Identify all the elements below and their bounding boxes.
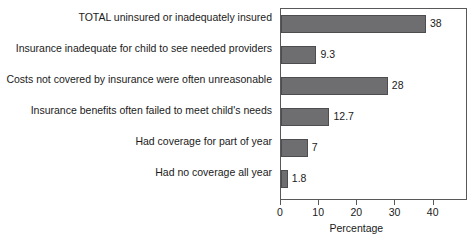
category-label-inadequate-providers: Insurance inadequate for child to see ne… [16,39,272,57]
bar-total-uninsured [281,15,426,33]
x-axis: 0 10 20 30 40 Percentage [280,200,467,240]
bar-benefits-failed [281,108,329,126]
category-label-no-coverage: Had no coverage all year [155,163,272,181]
category-axis-labels: TOTAL uninsured or inadequately insured … [0,8,276,200]
x-tick-label-20: 20 [350,206,362,218]
x-tick-mark-20 [356,200,357,205]
value-label-no-coverage: 1.8 [292,169,307,187]
category-label-costs-unreasonable: Costs not covered by insurance were ofte… [6,70,272,88]
value-label-total-uninsured: 38 [430,14,442,32]
value-label-partial-coverage: 7 [312,138,318,156]
value-label-benefits-failed: 12.7 [333,107,353,125]
x-tick-label-30: 30 [389,206,401,218]
bar-costs-unreasonable [281,77,388,95]
bar-chart: TOTAL uninsured or inadequately insured … [0,0,475,240]
x-tick-label-0: 0 [277,206,283,218]
x-tick-label-10: 10 [312,206,324,218]
x-tick-mark-0 [280,200,281,205]
x-axis-title: Percentage [329,222,383,234]
category-label-total-uninsured: TOTAL uninsured or inadequately insured [78,8,272,26]
category-label-partial-coverage: Had coverage for part of year [135,132,272,150]
bar-no-coverage [281,170,288,188]
category-label-benefits-failed: Insurance benefits often failed to meet … [31,101,272,119]
x-tick-mark-30 [394,200,395,205]
x-tick-label-40: 40 [427,206,439,218]
x-tick-mark-40 [433,200,434,205]
value-label-inadequate-providers: 9.3 [320,45,335,63]
bar-inadequate-providers [281,46,316,64]
value-label-costs-unreasonable: 28 [392,76,404,94]
x-tick-mark-10 [318,200,319,205]
bar-partial-coverage [281,139,308,157]
plot-area [280,8,467,200]
